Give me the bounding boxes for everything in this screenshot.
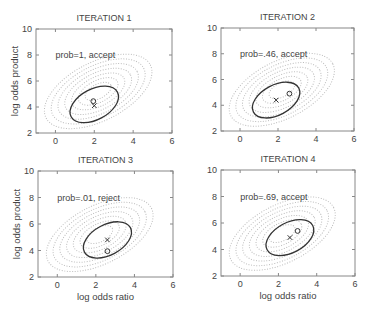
y-tick-label: 8 xyxy=(29,193,34,203)
y-tick-label: 2 xyxy=(212,126,217,136)
x-tick-label: 0 xyxy=(55,280,60,290)
panel-iteration-4: 0246246810ITERATION 4prob=.69, acceptlog… xyxy=(207,154,358,301)
y-tick-label: 10 xyxy=(207,165,217,175)
y-tick-label: 8 xyxy=(212,49,217,59)
target-density-contour xyxy=(242,201,322,266)
y-tick-label: 2 xyxy=(27,128,32,138)
current-point-x-marker xyxy=(105,238,110,243)
y-tick-label: 10 xyxy=(207,23,217,33)
panel-iteration-2: 0246246810ITERATION 2prob=.46, accept xyxy=(207,12,357,144)
proposed-point-o-marker xyxy=(287,91,292,96)
target-density-contour xyxy=(74,72,122,111)
x-axis-label: log odds ratio xyxy=(259,290,316,301)
x-tick-label: 6 xyxy=(170,280,175,290)
current-point-x-marker xyxy=(92,103,97,108)
x-tick-label: 4 xyxy=(132,280,137,290)
proposed-point-o-marker xyxy=(91,99,96,104)
target-density-contour xyxy=(43,189,157,280)
y-tick-label: 4 xyxy=(29,246,34,256)
x-tick-label: 2 xyxy=(93,280,98,290)
target-density-contour xyxy=(250,64,313,115)
y-tick-label: 8 xyxy=(212,192,217,202)
x-tick-label: 6 xyxy=(352,279,357,289)
x-tick-label: 0 xyxy=(237,134,242,144)
y-tick-label: 6 xyxy=(27,76,32,86)
y-tick-label: 8 xyxy=(27,50,32,60)
panel-title: ITERATION 2 xyxy=(260,12,315,22)
y-tick-label: 10 xyxy=(22,24,32,34)
x-tick-label: 4 xyxy=(314,279,319,289)
acceptance-annotation: prob=.46, accept xyxy=(240,49,308,59)
figure: 0246246810ITERATION 1prob=1, acceptlog o… xyxy=(0,0,368,310)
x-tick-label: 2 xyxy=(275,134,280,144)
panel-title: ITERATION 3 xyxy=(78,155,133,165)
y-tick-label: 4 xyxy=(27,102,32,112)
y-tick-label: 4 xyxy=(212,245,217,255)
y-tick-label: 6 xyxy=(29,219,34,229)
proposal-ellipse xyxy=(64,79,125,131)
y-tick-label: 6 xyxy=(212,75,217,85)
y-tick-label: 2 xyxy=(29,272,34,282)
x-axis-label: log odds ratio xyxy=(77,291,134,302)
x-tick-label: 6 xyxy=(169,136,174,146)
y-tick-label: 2 xyxy=(212,271,217,281)
proposed-point-o-marker xyxy=(295,229,300,234)
x-tick-label: 4 xyxy=(313,134,318,144)
panel-iteration-3: 0246246810ITERATION 3prob=.01, rejectlog… xyxy=(11,155,176,302)
panel-iteration-1: 0246246810ITERATION 1prob=1, acceptlog o… xyxy=(9,13,175,146)
x-tick-label: 0 xyxy=(53,136,58,146)
panel-title: ITERATION 1 xyxy=(77,13,132,23)
axes-frame xyxy=(221,28,354,131)
x-tick-label: 2 xyxy=(92,136,97,146)
x-tick-label: 0 xyxy=(238,279,243,289)
x-tick-label: 6 xyxy=(351,134,356,144)
acceptance-annotation: prob=1, accept xyxy=(55,50,115,60)
y-axis-label: log odds product xyxy=(11,189,22,260)
acceptance-annotation: prob=.01, reject xyxy=(57,193,120,203)
target-density-contour xyxy=(66,65,131,117)
y-tick-label: 10 xyxy=(24,166,34,176)
axes-frame xyxy=(221,170,355,276)
y-tick-label: 4 xyxy=(212,100,217,110)
target-density-contour xyxy=(250,208,314,259)
panel-title: ITERATION 4 xyxy=(261,154,316,164)
target-density-contour xyxy=(51,195,148,273)
target-density-contour xyxy=(68,209,132,261)
y-axis-label: log odds product xyxy=(9,46,20,117)
x-tick-label: 2 xyxy=(276,279,281,289)
y-tick-label: 6 xyxy=(212,218,217,228)
current-point-x-marker xyxy=(274,98,279,103)
current-point-x-marker xyxy=(288,235,293,240)
acceptance-annotation: prob=.69, accept xyxy=(240,192,308,202)
x-tick-label: 4 xyxy=(131,136,136,146)
target-density-contour xyxy=(266,77,297,102)
